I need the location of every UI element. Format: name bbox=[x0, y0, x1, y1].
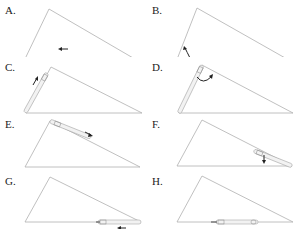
panel-f: F. bbox=[147, 114, 294, 171]
arrow-left-icon bbox=[58, 47, 68, 51]
arrow-up-icon bbox=[33, 76, 38, 85]
triangle-diagram bbox=[0, 171, 147, 229]
ruler bbox=[253, 149, 293, 168]
ruler bbox=[98, 220, 141, 224]
triangle-diagram bbox=[0, 114, 147, 171]
panel-a: A. bbox=[0, 0, 147, 57]
triangle-diagram bbox=[0, 0, 147, 57]
panel-b: B. bbox=[147, 0, 294, 57]
triangle-diagram bbox=[147, 171, 295, 229]
ruler bbox=[216, 220, 258, 224]
panel-h: H. bbox=[147, 171, 294, 228]
triangle-diagram bbox=[147, 114, 295, 171]
panel-e: E. bbox=[0, 114, 147, 171]
triangle-diagram bbox=[147, 57, 295, 114]
ruler bbox=[49, 119, 91, 139]
panel-c: C. bbox=[0, 57, 147, 114]
panel-d: D. bbox=[147, 57, 294, 114]
arrow-left-icon bbox=[117, 226, 126, 229]
rotate-arrow-icon bbox=[183, 46, 190, 57]
triangle-diagram bbox=[147, 0, 295, 57]
triangle-diagram bbox=[0, 57, 147, 114]
ruler bbox=[177, 64, 204, 113]
panel-g: G. bbox=[0, 171, 147, 228]
